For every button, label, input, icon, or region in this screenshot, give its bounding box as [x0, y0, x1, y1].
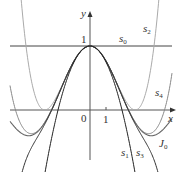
s4-label: s4: [155, 87, 163, 100]
x-axis-label: x: [168, 113, 173, 124]
s0-label: s0: [119, 33, 127, 46]
bessel-partial-sums-figure: y x 0 1 1 s0 s2 s4 J0 s1 s3: [0, 0, 181, 172]
origin-label: 0: [81, 113, 87, 124]
s3-label: s3: [136, 147, 144, 160]
s1-label: s1: [121, 147, 129, 160]
x-tick-label-1: 1: [103, 114, 109, 125]
curve-j0: [10, 46, 172, 136]
y-axis-label: y: [81, 8, 86, 19]
j0-label: J0: [159, 138, 167, 151]
s2-label: s2: [143, 23, 151, 36]
y-tick-label-1: 1: [81, 34, 87, 45]
plot-area: [0, 0, 181, 172]
curve-s4: [10, 46, 172, 134]
y-axis-arrow-icon: [88, 11, 93, 17]
